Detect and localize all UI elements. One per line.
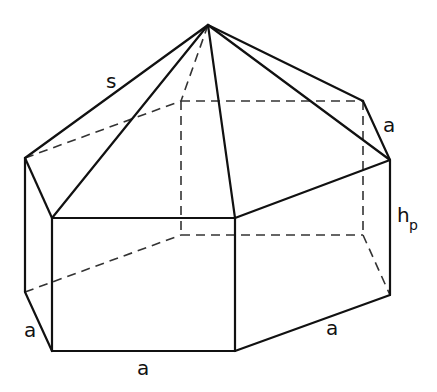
label-bottom-front-edge-a: a [137,356,149,380]
label-height-h: h [397,203,410,227]
label-height-subscript-p: p [409,217,418,233]
visible-edges [25,25,390,351]
label-top-right-edge-a: a [383,113,395,137]
label-slant-edge-s: s [106,69,116,93]
hidden-edges [25,25,390,295]
label-bottom-right-edge-a: a [326,316,338,340]
hexagonal-prism-pyramid-diagram: s a h p a a a [0,0,437,392]
label-bottom-left-edge-a: a [24,318,36,342]
